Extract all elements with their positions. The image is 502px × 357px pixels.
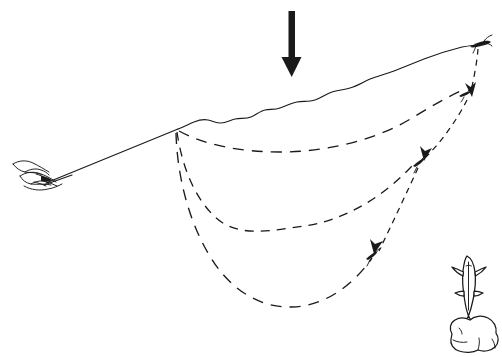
fly-fishing-scene [0, 0, 502, 357]
fly-rod [44, 129, 178, 185]
drift-arc-shallow [179, 90, 463, 152]
current-direction-arrow-icon [282, 11, 302, 77]
fly-line-surface [178, 45, 479, 129]
fly-at-surface-icon [470, 35, 492, 53]
illustration-canvas: hand gripping rod butt fly rod fly line … [0, 0, 502, 357]
boulder-icon [450, 316, 498, 352]
drift-arc-deep [176, 133, 372, 307]
angler-hand-icon [13, 161, 62, 190]
drift-arc-mid [177, 132, 412, 231]
